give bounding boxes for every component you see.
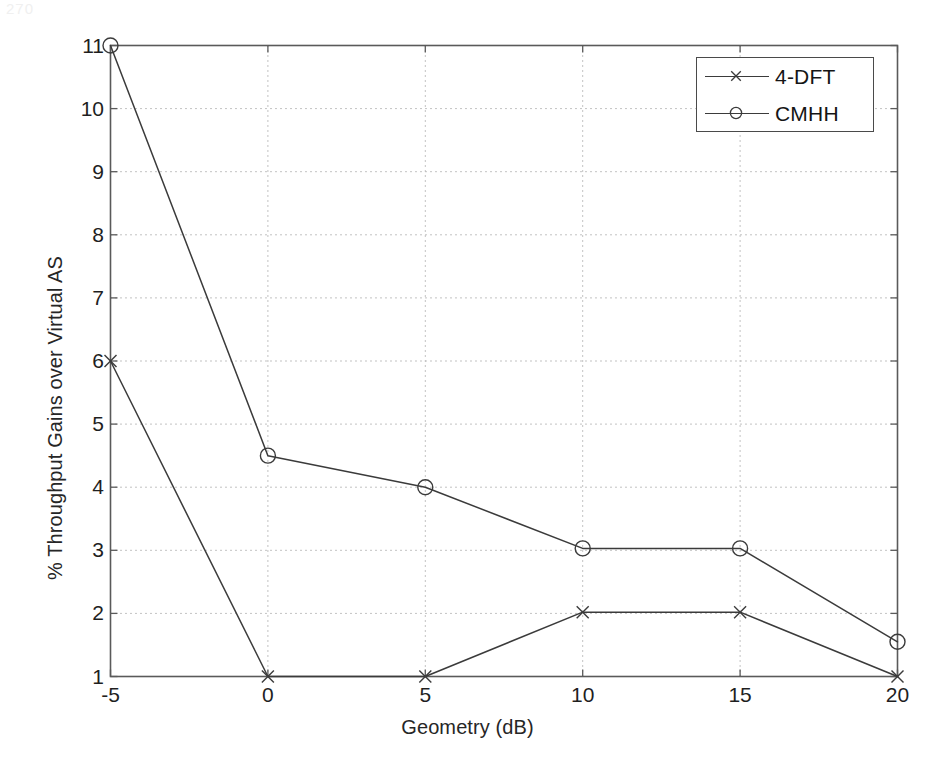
axes-frame [111,46,898,677]
circle-marker-icon [729,106,743,120]
series-4-dft [105,355,904,683]
grid-lines [111,46,898,677]
legend-label-1: CMHH [775,102,839,126]
axis-ticks [111,46,898,677]
series-line [111,46,898,642]
cross-marker-icon [729,69,743,83]
data-series-layer [103,38,905,683]
legend-item-1[interactable]: CMHH [697,95,875,132]
legend-item-0[interactable]: 4-DFT [697,58,875,95]
legend-sample-1 [697,95,775,132]
legend-sample-0 [697,58,775,95]
series-line [111,361,898,677]
legend[interactable]: 4-DFT CMHH [696,57,874,132]
legend-label-0: 4-DFT [775,65,836,89]
figure-canvas: 270 % Throughput Gains over Virtual AS G… [0,0,935,780]
axes-box [111,46,898,677]
